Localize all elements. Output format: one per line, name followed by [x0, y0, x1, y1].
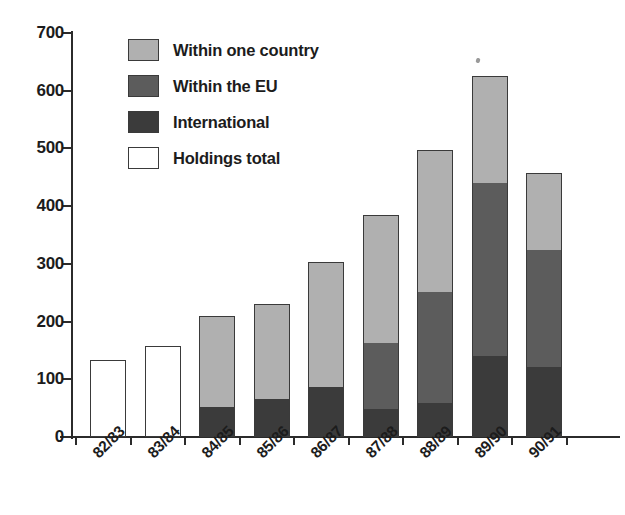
- bar-segment-within-one-country: [526, 173, 562, 250]
- bar-83-84[interactable]: [145, 346, 181, 437]
- bar-segment-within-one-country: [417, 150, 453, 292]
- bar-segment-within-one-country: [363, 215, 399, 343]
- x-tick-90-91: [511, 437, 513, 445]
- y-tick-label-700: 700: [8, 24, 64, 41]
- bar-84-85[interactable]: [199, 316, 235, 437]
- chart-legend: Within one countryWithin the EUInternati…: [128, 34, 358, 178]
- legend-item-within-one-country[interactable]: Within one country: [128, 34, 358, 66]
- bar-segment-within-the-eu: [417, 292, 453, 403]
- legend-swatch-within-one-country: [128, 39, 159, 61]
- legend-label-within-the-eu: Within the EU: [173, 77, 278, 96]
- legend-item-within-the-eu[interactable]: Within the EU: [128, 70, 358, 102]
- bar-segment-within-the-eu: [472, 183, 508, 356]
- bar-segment-within-the-eu: [526, 250, 562, 367]
- legend-swatch-holdings-total: [128, 147, 159, 169]
- bar-86-87[interactable]: [308, 262, 344, 437]
- bar-85-86[interactable]: [254, 304, 290, 437]
- legend-label-holdings-total: Holdings total: [173, 149, 280, 168]
- y-tick-label-400: 400: [8, 197, 64, 214]
- bar-90-91[interactable]: [526, 173, 562, 437]
- legend-item-holdings-total[interactable]: Holdings total: [128, 142, 358, 174]
- bar-segment-holdings-total: [90, 360, 126, 437]
- legend-item-international[interactable]: International: [128, 106, 358, 138]
- x-tick-83-84: [130, 437, 132, 445]
- stacked-bar-chart: 0100200300400500600700 82/8383/8484/8585…: [0, 0, 625, 515]
- bar-89-90[interactable]: [472, 76, 508, 437]
- bar-segment-within-one-country: [254, 304, 290, 399]
- bar-segment-within-one-country: [199, 316, 235, 407]
- x-tick-86-87: [293, 437, 295, 445]
- legend-label-within-one-country: Within one country: [173, 41, 319, 60]
- bar-segment-holdings-total: [145, 346, 181, 437]
- x-tick-89-90: [457, 437, 459, 445]
- x-tick-85-86: [239, 437, 241, 445]
- legend-swatch-international: [128, 111, 159, 133]
- y-tick-label-500: 500: [8, 139, 64, 156]
- bar-segment-within-one-country: [308, 262, 344, 387]
- y-tick-label-0: 0: [8, 428, 64, 445]
- legend-label-international: International: [173, 113, 269, 132]
- y-tick-label-100: 100: [8, 370, 64, 387]
- x-tick-87-88: [348, 437, 350, 445]
- x-tick-82-83: [75, 437, 77, 445]
- legend-swatch-within-the-eu: [128, 75, 159, 97]
- y-tick-label-300: 300: [8, 255, 64, 272]
- bar-82-83[interactable]: [90, 360, 126, 437]
- bar-segment-within-the-eu: [363, 343, 399, 409]
- bar-87-88[interactable]: [363, 215, 399, 437]
- bar-88-89[interactable]: [417, 150, 453, 437]
- x-tick-84-85: [184, 437, 186, 445]
- x-tick-end: [566, 437, 568, 445]
- bar-segment-international: [472, 356, 508, 437]
- x-tick-88-89: [402, 437, 404, 445]
- bar-segment-within-one-country: [472, 76, 508, 183]
- y-tick-label-600: 600: [8, 82, 64, 99]
- y-tick-label-200: 200: [8, 313, 64, 330]
